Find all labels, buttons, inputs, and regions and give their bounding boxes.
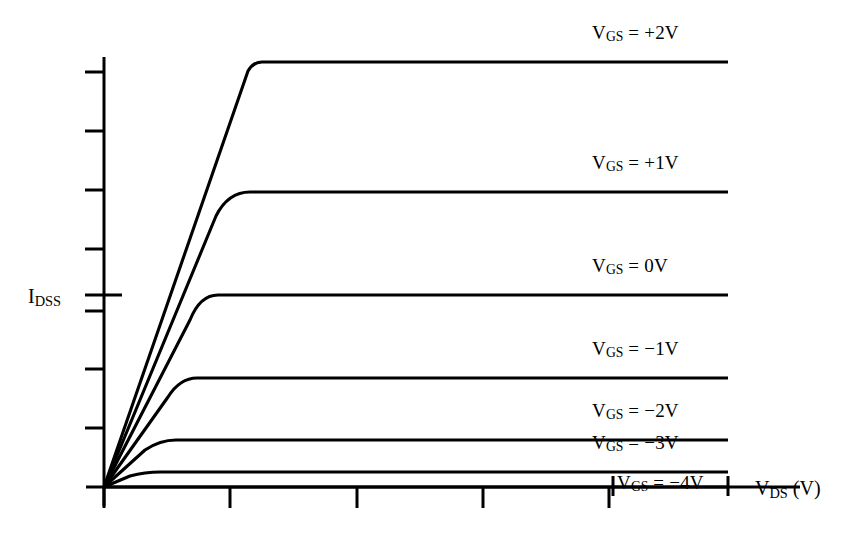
curve-label-sub: GS [606, 345, 623, 360]
curve-label-vgs-minus2v: VGS = −2V [592, 400, 679, 423]
curve-label-main: V [592, 338, 606, 359]
curve-label-main: V [617, 472, 631, 493]
y-axis-label-sub: DSS [35, 293, 61, 309]
curve-label-sub: GS [631, 479, 648, 494]
jfet-drain-characteristics-figure: IDSS VDS (V) VGS = +2V VGS = +1V VGS = 0… [0, 0, 854, 547]
curve-label-main: V [592, 152, 606, 173]
curve-label-main: V [592, 400, 606, 421]
curve-label-main: V [592, 255, 606, 276]
curve-label-main: V [592, 432, 606, 453]
curve-vgs-0v [104, 295, 728, 487]
curve-label-tail: = −1V [623, 338, 678, 359]
curve-label-vgs-0v: VGS = 0V [592, 255, 668, 278]
y-axis-label-main: I [28, 285, 35, 307]
curve-label-sub: GS [606, 439, 623, 454]
curve-label-main: V [592, 22, 606, 43]
curve-label-tail: = −4V [648, 472, 703, 493]
curve-label-tail: = −2V [623, 400, 678, 421]
curve-label-tail: = +1V [623, 152, 678, 173]
curve-label-vgs-minus4v: VGS = −4V [617, 472, 704, 495]
x-axis-ticks [104, 487, 609, 508]
curve-label-vgs-plus1v: VGS = +1V [592, 152, 679, 175]
curve-label-sub: GS [606, 407, 623, 422]
curve-label-vgs-minus3v: VGS = −3V [592, 432, 679, 455]
curve-label-sub: GS [606, 262, 623, 277]
x-axis-label-sub: DS [769, 485, 787, 501]
chart-canvas [0, 0, 854, 547]
y-axis-label: IDSS [28, 285, 61, 310]
x-axis-label: VDS (V) [755, 477, 821, 502]
curve-label-vgs-minus1v: VGS = −1V [592, 338, 679, 361]
x-axis-label-tail: (V) [788, 477, 821, 499]
x-axis-label-main: V [755, 477, 769, 499]
curve-label-vgs-plus2v: VGS = +2V [592, 22, 679, 45]
curve-label-tail: = −3V [623, 432, 678, 453]
curve-label-sub: GS [606, 29, 623, 44]
curve-label-tail: = 0V [623, 255, 667, 276]
curve-label-tail: = +2V [623, 22, 678, 43]
curve-label-sub: GS [606, 159, 623, 174]
